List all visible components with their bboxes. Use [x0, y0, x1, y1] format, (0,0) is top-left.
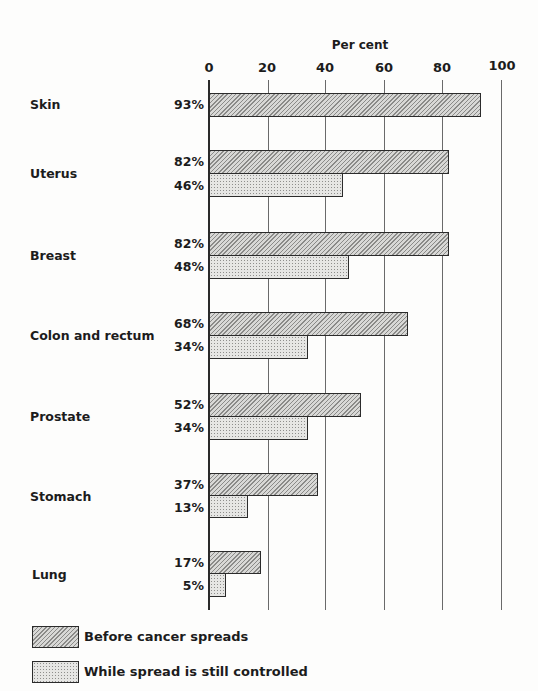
x-tick-0: 0: [204, 60, 213, 75]
value-label: 37%: [144, 477, 204, 492]
x-tick-100: 100: [488, 58, 515, 73]
x-tick-60: 60: [375, 60, 393, 75]
value-label: 34%: [144, 420, 204, 435]
value-label: 82%: [144, 236, 204, 251]
category-label-prostate: Prostate: [30, 409, 90, 424]
value-label: 52%: [144, 397, 204, 412]
value-label: 5%: [144, 578, 204, 593]
bar-controlled-uterus: [209, 173, 343, 197]
category-label-lung: Lung: [32, 567, 67, 582]
legend-label-controlled: While spread is still controlled: [84, 664, 308, 679]
category-label-breast: Breast: [30, 248, 76, 263]
bar-before-lung: [209, 551, 261, 574]
category-label-colon-and-rectum: Colon and rectum: [30, 328, 154, 343]
bar-before-stomach: [209, 473, 318, 496]
category-label-skin: Skin: [30, 97, 61, 112]
value-label: 46%: [144, 178, 204, 193]
x-tick-80: 80: [433, 60, 451, 75]
bar-controlled-breast: [209, 255, 349, 279]
bar-before-prostate: [209, 393, 361, 417]
value-label: 93%: [144, 97, 204, 112]
gridline-100: [501, 80, 502, 610]
bar-before-breast: [209, 232, 449, 256]
bar-before-skin: [209, 93, 481, 117]
value-label: 48%: [144, 259, 204, 274]
value-label: 17%: [144, 555, 204, 570]
bar-before-uterus: [209, 150, 449, 174]
x-tick-40: 40: [316, 60, 334, 75]
value-label: 13%: [144, 500, 204, 515]
bar-controlled-prostate: [209, 416, 308, 440]
value-label: 68%: [144, 316, 204, 331]
value-label: 82%: [144, 154, 204, 169]
bar-controlled-stomach: [209, 495, 248, 518]
legend-swatch-controlled: [32, 661, 79, 683]
bar-before-colon-and-rectum: [209, 312, 408, 336]
x-tick-20: 20: [258, 60, 276, 75]
legend-swatch-before: [32, 626, 79, 648]
category-label-uterus: Uterus: [30, 166, 77, 181]
bar-controlled-colon-and-rectum: [209, 335, 308, 359]
legend: Before cancer spreads While spread is st…: [32, 626, 332, 686]
bar-controlled-lung: [209, 573, 226, 597]
x-axis-title: Per cent: [320, 38, 400, 52]
category-label-stomach: Stomach: [30, 489, 91, 504]
legend-label-before: Before cancer spreads: [84, 629, 248, 644]
value-label: 34%: [144, 339, 204, 354]
